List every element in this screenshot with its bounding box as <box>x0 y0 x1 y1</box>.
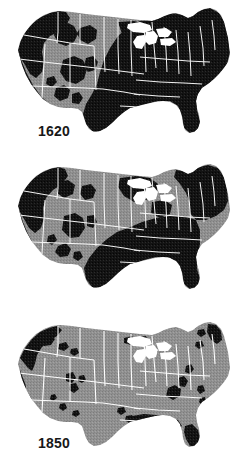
year-label-1620: 1620 <box>38 124 70 138</box>
map-panel-1850: 1850 <box>0 158 242 310</box>
map-panel-1920: 1920 <box>0 316 242 466</box>
map-series-figure: 1620 <box>0 0 242 466</box>
map-panel-1620: 1620 <box>0 2 242 154</box>
